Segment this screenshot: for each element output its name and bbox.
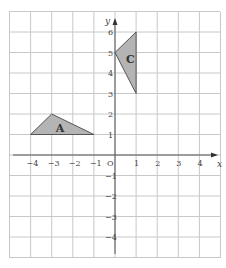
x-tick-label: −4: [27, 159, 39, 168]
x-tick-label: 1: [134, 159, 139, 168]
y-tick-label: 3: [108, 90, 113, 99]
x-tick-label: −1: [90, 159, 102, 168]
x-tick-label: 2: [155, 159, 160, 168]
y-tick-label: 2: [108, 110, 113, 119]
y-tick-label: 6: [108, 28, 113, 37]
y-tick-label: 5: [108, 49, 113, 58]
shape-label: A: [55, 122, 65, 135]
y-tick-label: −2: [105, 192, 117, 201]
y-tick-label: −3: [105, 213, 117, 222]
origin-label: O: [107, 159, 114, 168]
x-axis-label: x: [217, 159, 222, 169]
x-tick-label: −3: [48, 159, 60, 168]
y-axis-label: y: [104, 16, 111, 26]
shapes: AC: [31, 32, 137, 135]
coordinate-grid: AC xyO −4−3−2−11234654321−1−2−3−4: [0, 0, 226, 268]
x-tick-label: 4: [197, 159, 202, 168]
y-axis-arrow-icon: [113, 18, 118, 25]
x-tick-label: −2: [69, 159, 81, 168]
y-tick-label: −1: [105, 172, 117, 181]
y-tick-label: 1: [108, 131, 113, 140]
y-tick-label: −4: [105, 233, 117, 242]
x-axis-arrow-icon: [211, 153, 218, 158]
x-tick-label: 3: [176, 159, 181, 168]
y-tick-label: 4: [108, 69, 113, 78]
shape-label: C: [126, 53, 135, 66]
